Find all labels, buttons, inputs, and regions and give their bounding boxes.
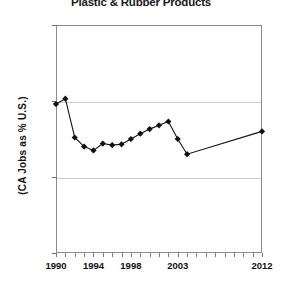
x-tick-mark <box>168 253 169 257</box>
x-tick-label: 2003 <box>155 260 201 271</box>
x-tick-mark <box>262 253 263 257</box>
x-tick-mark <box>196 253 197 257</box>
x-tick-mark <box>215 253 216 257</box>
x-tick-mark <box>131 253 132 257</box>
x-tick-mark <box>206 253 207 257</box>
x-tick-mark <box>65 253 66 257</box>
x-tick-label: 1998 <box>108 260 154 271</box>
y-tick-mark <box>52 101 57 102</box>
x-tick-mark <box>103 253 104 257</box>
x-tick-mark <box>243 253 244 257</box>
x-tick-mark <box>56 253 57 257</box>
y-axis-title: (CA Jobs as % U.S.) <box>17 61 28 231</box>
x-tick-mark <box>75 253 76 257</box>
x-tick-mark <box>122 253 123 257</box>
x-tick-mark <box>112 253 113 257</box>
x-tick-mark <box>187 253 188 257</box>
chart-container: Plastic & Rubber Products (CA Jobs as % … <box>0 0 282 287</box>
y-tick-mark <box>52 25 57 26</box>
y-tick-mark <box>52 177 57 178</box>
x-tick-mark <box>150 253 151 257</box>
x-tick-label: 2012 <box>239 260 282 271</box>
x-tick-mark <box>159 253 160 257</box>
gridline-y <box>57 102 261 103</box>
x-tick-mark <box>93 253 94 257</box>
x-tick-mark <box>234 253 235 257</box>
plot-area <box>56 25 262 253</box>
chart-title: Plastic & Rubber Products <box>0 0 282 9</box>
x-tick-mark <box>178 253 179 257</box>
x-tick-mark <box>225 253 226 257</box>
gridline-y <box>57 178 261 179</box>
x-tick-mark <box>253 253 254 257</box>
x-tick-mark <box>84 253 85 257</box>
x-tick-mark <box>140 253 141 257</box>
